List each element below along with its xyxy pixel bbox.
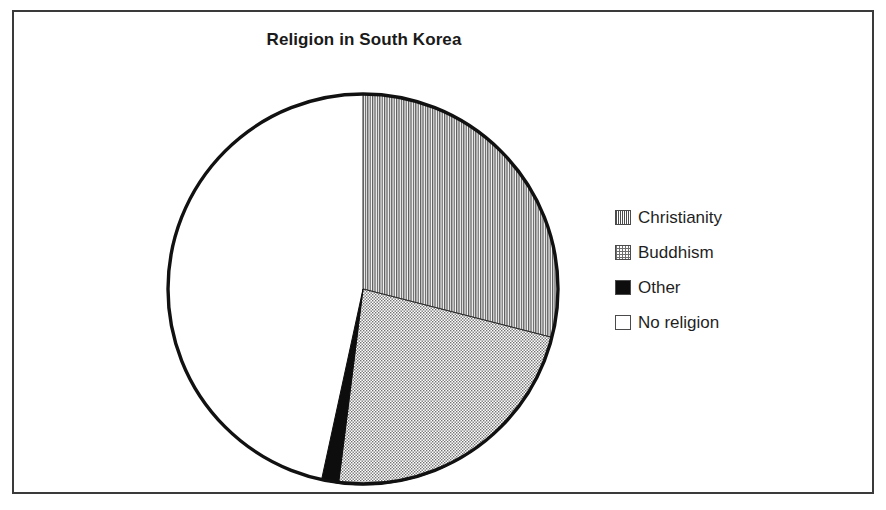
legend-item-buddhism[interactable]: Buddhism (615, 235, 845, 270)
pie-chart-plot-area (144, 72, 584, 492)
legend-label-christianity: Christianity (638, 209, 722, 226)
chart-legend: Christianity Buddhism Other No religion (615, 200, 845, 340)
legend-label-buddhism: Buddhism (638, 244, 714, 261)
legend-label-no-religion: No religion (638, 314, 719, 331)
chart-title: Religion in South Korea (14, 30, 714, 50)
pie-chart-svg (144, 72, 584, 492)
legend-label-other: Other (638, 279, 681, 296)
legend-item-no-religion[interactable]: No religion (615, 305, 845, 340)
legend-swatch-other-icon (615, 280, 631, 295)
chart-frame: Religion in South Korea (12, 10, 874, 494)
legend-swatch-no-religion-icon (615, 315, 631, 330)
legend-item-christianity[interactable]: Christianity (615, 200, 845, 235)
legend-swatch-buddhism-icon (615, 245, 631, 260)
legend-swatch-christianity-icon (615, 210, 631, 225)
legend-item-other[interactable]: Other (615, 270, 845, 305)
